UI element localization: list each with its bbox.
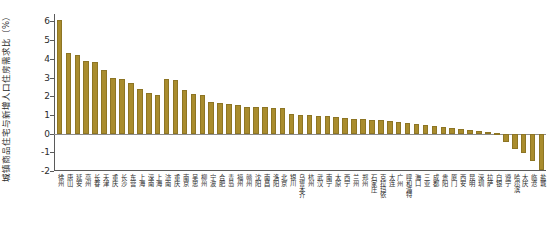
x-tick-label: 亳州	[84, 174, 91, 186]
x-tick-label: 郑州	[361, 174, 368, 186]
bar	[485, 132, 491, 134]
x-tick-label: 合肥	[218, 174, 225, 186]
bar	[208, 102, 214, 134]
x-tick-label: 宁波	[209, 174, 216, 186]
x-tick-label: 唐山	[66, 174, 73, 186]
y-tick-label: -1	[22, 147, 50, 157]
x-tick-label: 昆明	[468, 174, 475, 186]
x-axis-tick-labels: 徐州唐山延安亳州长春天津重庆长沙东营上海深南上海济南重庆南京吴忠柳州宁波合肥青岛…	[55, 174, 546, 228]
bar	[405, 123, 411, 134]
y-tick-mark	[50, 152, 54, 153]
x-tick-label: 青岛	[227, 174, 234, 186]
x-tick-label: 北京	[280, 174, 287, 186]
x-tick-label: 长沙	[120, 174, 127, 186]
bar	[342, 118, 348, 134]
bar	[119, 79, 125, 133]
y-tick-mark	[50, 134, 54, 135]
y-tick-mark	[50, 21, 54, 22]
x-tick-label: 上海	[155, 174, 162, 186]
x-tick-label: 济南	[164, 174, 171, 186]
x-tick-label: 杭州	[307, 174, 314, 186]
x-tick-label: 成都	[432, 174, 439, 186]
y-tick-mark	[50, 115, 54, 116]
x-tick-label: 大庆	[521, 174, 528, 186]
x-tick-label: 克拉玛依	[379, 174, 386, 197]
bar	[66, 53, 72, 133]
x-tick-label: 柳州	[200, 174, 207, 186]
y-axis-tick-labels: -2-10123456	[24, 14, 50, 171]
x-tick-label: 赣州	[245, 174, 252, 186]
y-axis-title-container: 城镇商品住宅与新增人口住房需求比（%）	[0, 0, 16, 185]
bar	[432, 126, 438, 134]
y-tick-mark	[50, 171, 54, 172]
bar	[200, 95, 206, 133]
x-tick-label: 沈阳	[254, 174, 261, 186]
bar	[387, 121, 393, 134]
bar	[503, 134, 509, 142]
y-tick-mark	[50, 40, 54, 41]
bar	[325, 116, 331, 133]
x-tick-label: 重庆	[111, 174, 118, 186]
bar	[476, 131, 482, 134]
y-tick-mark	[50, 96, 54, 97]
x-tick-label: 西宁	[343, 174, 350, 186]
bar	[146, 93, 152, 133]
bar	[235, 105, 241, 134]
x-tick-label: 徐州	[57, 174, 64, 186]
x-tick-label: 南京	[182, 174, 189, 186]
y-tick-label: 2	[22, 91, 50, 101]
bar	[280, 108, 286, 133]
x-tick-label: 西安	[459, 174, 466, 186]
bar	[369, 120, 375, 134]
bar	[458, 129, 464, 134]
bar	[494, 133, 500, 135]
plot-area	[54, 14, 546, 171]
x-tick-label: 东营	[129, 174, 136, 186]
x-tick-label: 南宁	[325, 174, 332, 186]
bar	[155, 95, 161, 133]
bar	[262, 107, 268, 133]
x-tick-label: 南昌	[262, 174, 269, 186]
bar	[83, 61, 89, 134]
bar	[396, 122, 402, 134]
y-tick-label: 0	[22, 129, 50, 139]
x-tick-label: 深南	[146, 174, 153, 186]
bar	[378, 120, 384, 133]
bar	[182, 90, 188, 134]
bar	[57, 20, 63, 134]
x-tick-label: 广州	[396, 174, 403, 186]
x-tick-label: 上海	[138, 174, 145, 186]
bar-chart: 城镇商品住宅与新增人口住房需求比（%） -2-10123456 徐州唐山延安亳州…	[0, 0, 550, 228]
x-tick-label: 武汉	[316, 174, 323, 186]
y-tick-label: 4	[22, 54, 50, 64]
x-tick-label: 福州	[236, 174, 243, 186]
bar-series	[55, 14, 546, 171]
bar	[539, 134, 545, 170]
bar	[164, 79, 170, 133]
bar	[360, 119, 366, 134]
bar	[414, 124, 420, 134]
x-tick-label: 深圳	[477, 174, 484, 186]
bar	[217, 103, 223, 133]
bar	[244, 107, 250, 134]
x-tick-label: 洛阳	[271, 174, 278, 186]
x-tick-label: 石家庄	[370, 174, 377, 191]
x-tick-label: 长春	[93, 174, 100, 186]
y-tick-label: 5	[22, 35, 50, 45]
bar	[307, 115, 313, 133]
bar	[512, 134, 518, 150]
x-tick-label: 兰州	[352, 174, 359, 186]
x-tick-label: 厦门	[450, 174, 457, 186]
bar	[92, 62, 98, 134]
x-tick-label: 太原	[334, 174, 341, 186]
x-tick-label: 哈尔滨	[512, 174, 519, 191]
x-tick-label: 海口	[414, 174, 421, 186]
x-tick-label: 延安	[75, 174, 82, 186]
bar	[530, 134, 536, 161]
bar	[110, 78, 116, 134]
x-tick-label: 重庆	[173, 174, 180, 186]
x-tick-label: 乌鲁木齐	[298, 174, 305, 197]
x-tick-label: 吴忠	[191, 174, 198, 186]
x-tick-label: 三亚	[423, 174, 430, 186]
bar	[289, 114, 295, 134]
